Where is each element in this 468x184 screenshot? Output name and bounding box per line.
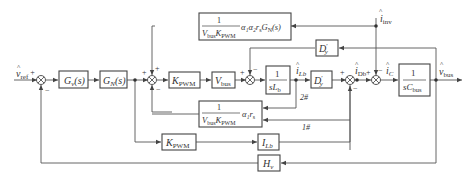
svg-text:iC: iC xyxy=(386,65,394,78)
svg-text:−: − xyxy=(45,86,50,95)
svg-text:D′y: D′y xyxy=(318,42,329,56)
svg-text:iinv: iinv xyxy=(380,13,392,26)
block-KPWM-lower: KPWM xyxy=(162,134,196,150)
block-inductor: 1 sLb xyxy=(266,66,290,94)
block-Dy-forward: D′y xyxy=(311,71,332,88)
block-top-feedforward: 1 VbusKPWM α₁α₂rsGN(s) xyxy=(199,13,291,40)
svg-text:iLb: iLb xyxy=(296,65,307,78)
block-ILb: ILb xyxy=(258,134,279,150)
svg-text:−: − xyxy=(156,85,161,94)
svg-text:+: + xyxy=(366,68,371,77)
svg-text:D′y: D′y xyxy=(313,74,324,88)
block-mid-feedback: 1 VbusKPWM α₁rs xyxy=(199,101,262,127)
sum-junction-5 xyxy=(372,76,381,85)
block-capacitor: 1 sCbus xyxy=(399,64,430,96)
block-GN: GN(s) xyxy=(100,71,127,88)
block-Dy-feedback: D′y xyxy=(316,40,338,56)
svg-text:−: − xyxy=(253,65,258,74)
svg-text:+: + xyxy=(340,68,345,77)
path-label-2: 2# xyxy=(300,93,309,102)
svg-text:+: + xyxy=(155,64,160,73)
input-i-inv-label: ^ iinv xyxy=(379,7,392,26)
svg-text:vbus: vbus xyxy=(439,66,453,79)
svg-text:+: + xyxy=(142,68,147,77)
signal-iC-label: ^ iC xyxy=(386,60,394,78)
svg-text:−: − xyxy=(353,84,358,93)
block-KPWM-forward: KPWM xyxy=(169,72,200,88)
block-Hv: Hv xyxy=(258,155,280,171)
input-v-ref-label: ^ vref+ xyxy=(16,63,35,81)
sum-junction-3 xyxy=(246,76,255,85)
junction-iDb xyxy=(355,78,359,82)
sum-junction-1 xyxy=(37,76,46,85)
svg-text:1: 1 xyxy=(217,103,221,112)
svg-text:1: 1 xyxy=(275,69,280,79)
svg-text:1: 1 xyxy=(217,16,221,25)
control-block-diagram: Gv(s) GN(s) KPWM Vbus 1 sLb D′y D′y 1 sC… xyxy=(0,0,468,184)
output-v-bus-label: ^ vbus xyxy=(439,60,453,79)
sum-junction-2 xyxy=(148,76,157,85)
svg-text:−: − xyxy=(378,66,383,75)
signal-iLb-label: ^ iLb xyxy=(296,60,307,78)
svg-text:1: 1 xyxy=(411,68,416,78)
block-Gv: Gv(s) xyxy=(59,71,88,88)
svg-text:vref+: vref+ xyxy=(16,68,35,81)
path-label-1: 1# xyxy=(302,123,311,132)
svg-text:+: + xyxy=(240,68,245,77)
block-Vbus: Vbus xyxy=(212,72,235,88)
svg-text:α₁α₂rsGN(s): α₁α₂rsGN(s) xyxy=(241,22,281,33)
